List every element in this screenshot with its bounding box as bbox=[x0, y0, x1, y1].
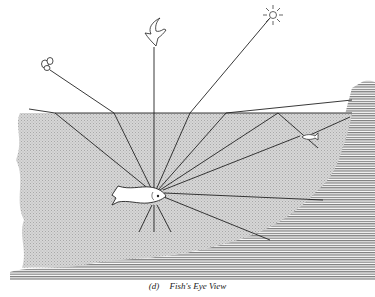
fish-eye-view-diagram bbox=[0, 0, 375, 280]
sun-icon bbox=[263, 5, 283, 25]
figure-caption: (d) Fish's Eye View bbox=[0, 281, 375, 291]
insect-icon bbox=[42, 58, 54, 71]
caption-label: (d) bbox=[149, 281, 160, 291]
caption-text: Fish's Eye View bbox=[170, 281, 227, 291]
bird-icon bbox=[145, 18, 166, 46]
